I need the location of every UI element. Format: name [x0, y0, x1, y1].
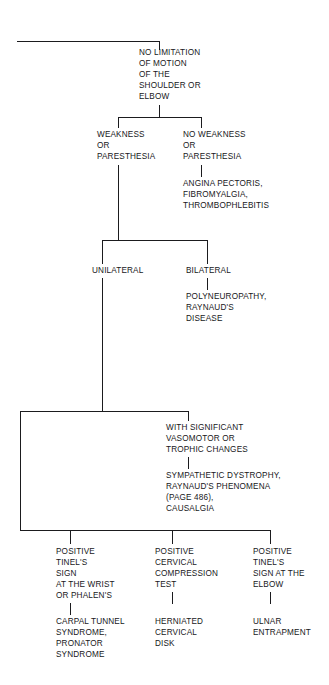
- connector-root-stem: [159, 105, 160, 117]
- connector-bilateral-to-dx: [207, 278, 208, 290]
- flowchart-canvas: NO LIMITATION OF MOTION OF THE SHOULDER …: [0, 0, 329, 685]
- connector-tinel-wrist-to-dx: [70, 603, 71, 615]
- connector-split2-left-drop: [102, 240, 103, 264]
- node-bilateral-diagnoses: POLYNEUROPATHY, RAYNAUD'S DISEASE: [186, 291, 266, 324]
- connector-top-horizontal: [17, 41, 160, 42]
- connector-left-rail: [20, 411, 21, 530]
- connector-split3-bar: [20, 530, 271, 531]
- node-no-weakness: NO WEAKNESS OR PARESTHESIA: [183, 129, 246, 162]
- node-no-limitation: NO LIMITATION OF MOTION OF THE SHOULDER …: [139, 47, 201, 102]
- node-tinel-elbow: POSITIVE TINEL'S SIGN AT THE ELBOW: [253, 546, 305, 590]
- node-bilateral: BILATERAL: [186, 265, 231, 276]
- connector-weakness-stem: [118, 165, 119, 240]
- node-unilateral: UNILATERAL: [92, 265, 143, 276]
- node-tinel-elbow-diagnoses: ULNAR ENTRAPMENT: [253, 616, 311, 638]
- connector-split1-right-drop: [201, 117, 202, 128]
- node-tinel-wrist: POSITIVE TINEL'S SIGN AT THE WRIST OR PH…: [56, 546, 115, 601]
- connector-vasomotor-to-dx: [188, 457, 189, 469]
- node-cervical-compression: POSITIVE CERVICAL COMPRESSION TEST: [155, 546, 218, 590]
- connector-tinel-elbow-to-dx: [270, 592, 271, 604]
- connector-split3-drop-left: [70, 530, 71, 544]
- node-vasomotor: WITH SIGNIFICANT VASOMOTOR OR TROPHIC CH…: [166, 422, 248, 455]
- connector-split1-bar: [118, 117, 202, 118]
- connector-split3-drop-middle: [172, 530, 173, 544]
- connector-unilateral-stem: [102, 278, 103, 411]
- node-weakness: WEAKNESS OR PARESTHESIA: [97, 129, 155, 162]
- node-no-weakness-diagnoses: ANGINA PECTORIS, FIBROMYALGIA, THROMBOPH…: [183, 178, 269, 211]
- connector-cervical-to-dx: [172, 592, 173, 604]
- connector-vasomotor-drop: [188, 411, 189, 421]
- connector-vasomotor-bar: [20, 411, 189, 412]
- connector-split2-right-drop: [207, 240, 208, 264]
- node-tinel-wrist-diagnoses: CARPAL TUNNEL SYNDROME, PRONATOR SYNDROM…: [56, 616, 125, 660]
- node-cervical-compression-diagnoses: HERNIATED CERVICAL DISK: [155, 616, 203, 649]
- connector-split1-left-drop: [118, 117, 119, 128]
- connector-split3-drop-right: [270, 530, 271, 544]
- connector-split2-bar: [102, 240, 208, 241]
- connector-no-weakness-to-dx: [201, 165, 202, 177]
- node-vasomotor-diagnoses: SYMPATHETIC DYSTROPHY, RAYNAUD'S PHENOME…: [166, 470, 281, 514]
